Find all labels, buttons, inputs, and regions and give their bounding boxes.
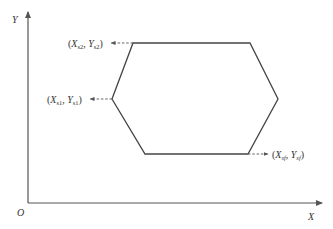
y-axis-label: Y <box>12 14 19 25</box>
diagram-canvas: Y X O (Xs2, Ys2) (Xs1, Ys1) (Xsf, Ysf) <box>0 0 333 229</box>
hexagon-shape <box>112 43 278 154</box>
x-axis-label: X <box>307 211 315 222</box>
origin-label: O <box>17 207 24 218</box>
point-label-sf: (Xsf, Ysf) <box>272 149 304 161</box>
point-label-s1: (Xs1, Ys1) <box>47 94 82 106</box>
point-label-s2: (Xs2, Ys2) <box>68 38 103 50</box>
